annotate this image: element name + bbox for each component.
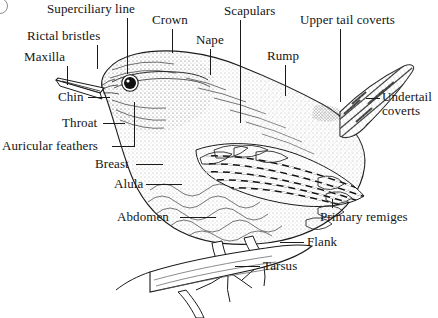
leader-line-flank	[280, 242, 304, 243]
label-primary-remiges: Primary remiges	[320, 210, 408, 224]
label-alula: Alula	[114, 177, 143, 191]
leader-line-scapulars	[240, 20, 241, 123]
bird-illustration	[0, 0, 438, 318]
leader-line-abdomen	[180, 217, 216, 218]
label-tarsus: Tarsus	[263, 259, 297, 273]
label-crown: Crown	[152, 13, 188, 27]
leader-line-auricular-feathers-riser	[134, 102, 135, 147]
leader-line-nape	[210, 49, 211, 75]
leader-line-upper-tail-coverts	[340, 29, 341, 102]
label-nape: Nape	[196, 33, 224, 47]
label-rump: Rump	[267, 49, 299, 63]
leader-line-tarsus	[235, 266, 260, 267]
label-breast: Breast	[95, 157, 129, 171]
label-rictal-bristles: Rictal bristles	[27, 29, 100, 43]
label-superciliary-line: Superciliary line	[47, 2, 135, 16]
leader-line-rictal-bristles	[97, 45, 98, 69]
leader-line-alula	[146, 184, 182, 185]
label-undertail-coverts: Undertail coverts	[382, 90, 436, 118]
leader-line-chin	[88, 97, 110, 98]
bird-anatomy-figure: Superciliary line Crown Scapulars Upper …	[0, 0, 438, 318]
leader-line-undertail-coverts	[366, 98, 380, 99]
label-upper-tail-coverts: Upper tail coverts	[300, 13, 395, 27]
leader-line-superciliary-line	[127, 18, 128, 74]
leader-line-primary-remiges	[332, 199, 333, 208]
label-chin: Chin	[58, 90, 84, 104]
label-throat: Throat	[62, 116, 97, 130]
leader-line-breast	[136, 164, 163, 165]
leader-line-auricular-feathers	[112, 146, 134, 147]
leader-line-crown	[172, 29, 173, 53]
leader-line-maxilla	[67, 66, 68, 85]
label-scapulars: Scapulars	[224, 4, 275, 18]
leader-line-rump	[285, 65, 286, 96]
label-abdomen: Abdomen	[117, 210, 169, 224]
label-maxilla: Maxilla	[24, 50, 65, 64]
label-auricular-feathers: Auricular feathers	[2, 139, 98, 153]
leader-line-throat	[103, 123, 125, 124]
label-flank: Flank	[307, 235, 337, 249]
